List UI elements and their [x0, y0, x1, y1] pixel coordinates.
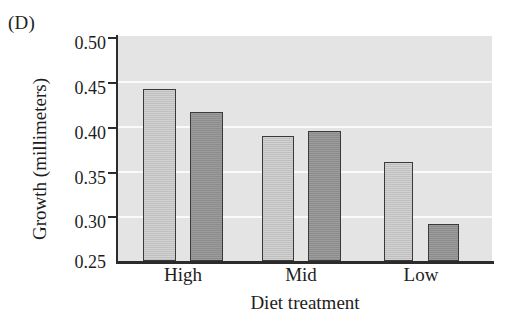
- x-tick-label-low: Low: [382, 264, 460, 286]
- y-axis-line: [116, 35, 118, 262]
- plot-area: [118, 36, 492, 261]
- bar-mid-series1: [262, 136, 294, 261]
- y-tick-label-045: 0.45: [48, 78, 106, 99]
- figure-panel-d: (D) Growth (millimeters) 0.50 0.45 0.40 …: [0, 0, 510, 328]
- panel-label: (D): [8, 12, 35, 34]
- bar-low-series1: [384, 162, 413, 261]
- y-axis-title: Growth (millimeters): [29, 34, 51, 284]
- gridline-045: [118, 81, 492, 83]
- y-tick-label-035: 0.35: [48, 168, 106, 189]
- y-tick-label-050: 0.50: [48, 33, 106, 54]
- bar-high-series2: [190, 112, 223, 261]
- x-axis-title: Diet treatment: [118, 292, 492, 314]
- bar-low-series2: [428, 224, 459, 261]
- y-tick-label-025: 0.25: [48, 252, 106, 273]
- x-tick-label-high: High: [143, 264, 223, 286]
- bar-high-series1: [143, 89, 176, 261]
- y-tick-label-030: 0.30: [48, 212, 106, 233]
- y-tick-label-040: 0.40: [48, 123, 106, 144]
- x-tick-label-mid: Mid: [262, 264, 340, 286]
- bar-mid-series2: [308, 131, 341, 261]
